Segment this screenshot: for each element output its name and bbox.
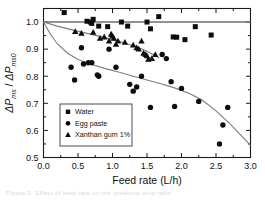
x-axis-title: Feed rate (L/h) [112, 174, 181, 186]
data-point [91, 17, 96, 22]
data-point [105, 24, 110, 29]
data-point [225, 105, 230, 110]
data-point [156, 14, 161, 19]
x-tick-label: 0.0 [37, 161, 50, 171]
data-point [148, 26, 153, 31]
data-point [81, 61, 86, 66]
x-tick-label: 1.0 [106, 161, 119, 171]
data-point [182, 37, 187, 42]
data-point [179, 86, 184, 91]
legend-label: Egg paste [75, 119, 107, 128]
series-water [62, 10, 214, 42]
data-point [148, 105, 153, 110]
y-axis-title-text: ΔPms / ΔPms0 [3, 53, 17, 114]
data-point [164, 56, 169, 61]
data-point [79, 45, 84, 50]
y-tick-label: 0.6 [26, 126, 39, 136]
y-tick-label: 0.9 [26, 44, 39, 54]
data-point [172, 104, 177, 109]
x-tick-label: 3.0 [244, 161, 257, 171]
data-point [113, 65, 118, 70]
caption-text: Figure 5. Effect of feed rate on the pre… [0, 190, 265, 196]
x-tick-label: 2.5 [210, 161, 223, 171]
legend-label: Xanthan gum 1% [75, 130, 131, 139]
data-point [139, 74, 144, 79]
legend-marker-square [66, 110, 70, 114]
data-point [90, 29, 96, 35]
data-point [134, 84, 139, 89]
data-point [217, 141, 222, 146]
y-tick-label: 1.0 [26, 17, 39, 27]
figure-caption-partial: Figure 5. Effect of feed rate on the pre… [0, 190, 265, 202]
data-point [127, 82, 132, 87]
x-tick-label: 0.5 [72, 161, 85, 171]
data-point [89, 60, 94, 65]
y-axis-title: ΔPms / ΔPms0 [3, 53, 17, 114]
scatter-plot: 0.00.51.01.52.02.53.00.50.60.70.80.91.0F… [0, 0, 265, 202]
data-point [96, 24, 101, 29]
data-point [62, 10, 67, 15]
data-point [125, 24, 130, 29]
data-point [193, 24, 198, 29]
data-point [209, 33, 214, 38]
data-point [220, 122, 225, 127]
x-tick-label: 1.5 [141, 161, 154, 171]
data-point [138, 38, 144, 44]
data-point [196, 99, 201, 104]
legend-label: Water [75, 107, 95, 116]
legend-marker-circle [66, 121, 71, 126]
data-point [168, 79, 173, 84]
data-point [106, 46, 111, 51]
data-point [68, 65, 73, 70]
y-tick-label: 0.5 [26, 153, 39, 163]
data-point [119, 20, 124, 25]
x-tick-label: 2.0 [175, 161, 188, 171]
figure-container: 0.00.51.01.52.02.53.00.50.60.70.80.91.0F… [0, 0, 265, 202]
data-point [159, 52, 164, 57]
data-point [145, 20, 150, 25]
y-tick-label: 0.8 [26, 72, 39, 82]
y-tick-label: 0.7 [26, 99, 39, 109]
data-point [96, 74, 101, 79]
data-point [72, 77, 77, 82]
data-point [174, 35, 179, 40]
